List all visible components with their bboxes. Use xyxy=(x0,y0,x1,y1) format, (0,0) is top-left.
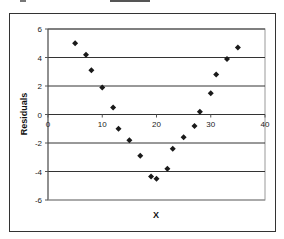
axes xyxy=(45,29,265,200)
scatter-plot: -6-4-20246010203040 X Residuals xyxy=(0,0,284,239)
data-point xyxy=(213,72,219,78)
data-point xyxy=(72,40,78,46)
data-point xyxy=(148,173,154,179)
y-axis-title: Residuals xyxy=(19,93,29,136)
data-point xyxy=(83,52,89,58)
x-tick-label: 30 xyxy=(206,120,215,129)
data-point xyxy=(208,90,214,96)
y-tick-label: -6 xyxy=(35,196,43,205)
data-point xyxy=(88,67,94,73)
data-point xyxy=(197,109,203,115)
y-tick-label: 2 xyxy=(38,82,43,91)
x-tick-label: 20 xyxy=(152,120,161,129)
x-tick-label: 10 xyxy=(98,120,107,129)
y-tick-label: 6 xyxy=(38,25,43,34)
x-axis-title: X xyxy=(153,210,159,220)
data-point xyxy=(99,84,105,90)
x-tick-label: 0 xyxy=(46,120,51,129)
data-point xyxy=(116,126,122,132)
data-point xyxy=(126,137,132,143)
data-point xyxy=(110,104,116,110)
data-point xyxy=(235,45,241,51)
data-point xyxy=(154,176,160,182)
data-point xyxy=(170,146,176,152)
y-tick-label: 0 xyxy=(38,111,43,120)
y-tick-label: -4 xyxy=(35,168,43,177)
y-tick-label: -2 xyxy=(35,139,43,148)
data-point xyxy=(164,166,170,172)
y-tick-label: 4 xyxy=(38,54,43,63)
data-point xyxy=(137,153,143,159)
x-tick-label: 40 xyxy=(261,120,270,129)
data-point xyxy=(181,134,187,140)
data-points xyxy=(72,40,241,181)
data-point xyxy=(224,56,230,62)
data-point xyxy=(191,123,197,129)
